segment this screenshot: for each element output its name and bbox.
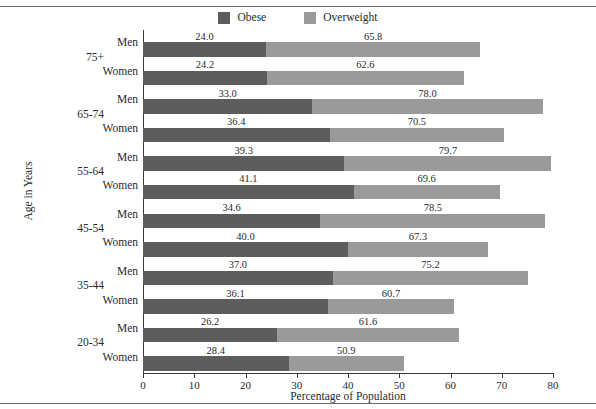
bar-value-overweight: 79.7: [439, 145, 457, 156]
bar-row: 28.450.9: [143, 344, 553, 373]
legend-label: Obese: [237, 12, 266, 24]
bar-value-overweight: 69.6: [417, 173, 435, 184]
sex-label: Women: [103, 179, 138, 191]
bar-segment-obese: [143, 242, 348, 257]
chart-legend: ObeseOverweight: [0, 10, 596, 26]
x-tick-mark: [451, 373, 452, 378]
bar-value-obese: 36.4: [227, 116, 245, 127]
bar-segment-overweight: [333, 271, 529, 286]
bar-value-obese: 33.0: [218, 88, 236, 99]
sex-label: Women: [103, 351, 138, 363]
bar-value-overweight: 65.8: [364, 31, 382, 42]
bar-value-overweight: 67.3: [409, 231, 427, 242]
bar-value-obese: 24.0: [195, 31, 213, 42]
age-group-labels: 75+65-7455-6445-5435-4420-34: [0, 30, 104, 373]
y-axis-title: Age in Years: [22, 131, 34, 251]
stacked-bar: [143, 299, 454, 314]
sex-label: Women: [103, 294, 138, 306]
bar-segment-overweight: [344, 156, 551, 171]
bar-value-overweight: 78.5: [424, 202, 442, 213]
bar-value-obese: 36.1: [226, 288, 244, 299]
x-tick-mark: [297, 373, 298, 378]
sex-label: Men: [117, 151, 138, 163]
bar-row: 40.067.3: [143, 230, 553, 259]
bar-value-obese: 26.2: [201, 316, 219, 327]
stacked-bar: [143, 328, 459, 343]
sex-label: Men: [117, 93, 138, 105]
bar-row: 34.678.5: [143, 202, 553, 231]
bar-row: 36.470.5: [143, 116, 553, 145]
bottom-rule: [0, 403, 596, 404]
bar-row: 41.169.6: [143, 173, 553, 202]
bar-segment-obese: [143, 214, 320, 229]
bar-segment-obese: [143, 42, 266, 57]
x-tick-mark: [194, 373, 195, 378]
age-group-label: 65-74: [77, 108, 104, 120]
age-group-label: 75+: [86, 51, 104, 63]
bar-segment-obese: [143, 128, 330, 143]
stacked-bar: [143, 128, 504, 143]
bar-segment-obese: [143, 71, 267, 86]
x-tick-mark: [553, 373, 554, 378]
legend-swatch-icon: [218, 12, 230, 24]
bar-segment-overweight: [266, 42, 480, 57]
bar-value-obese: 41.1: [239, 173, 257, 184]
top-rule: [0, 6, 596, 7]
bar-value-obese: 37.0: [229, 259, 247, 270]
bar-value-obese: 39.3: [235, 145, 253, 156]
sex-label: Women: [103, 65, 138, 77]
x-tick-mark: [348, 373, 349, 378]
age-group-label: 35-44: [77, 279, 104, 291]
bar-row: 36.160.7: [143, 287, 553, 316]
legend-entry-overweight: Overweight: [304, 12, 377, 24]
bar-row: 39.379.7: [143, 144, 553, 173]
stacked-bar: [143, 156, 551, 171]
x-tick-mark: [246, 373, 247, 378]
bar-value-obese: 34.6: [222, 202, 240, 213]
bar-segment-obese: [143, 156, 344, 171]
figure-chart: ObeseOverweight 24.065.824.262.633.078.0…: [0, 0, 596, 409]
bar-value-overweight: 60.7: [382, 288, 400, 299]
sex-label: Men: [117, 208, 138, 220]
bar-segment-overweight: [348, 242, 488, 257]
bar-segment-obese: [143, 356, 289, 371]
age-group-label: 55-64: [77, 165, 104, 177]
stacked-bar: [143, 71, 464, 86]
bar-row: 37.075.2: [143, 259, 553, 288]
legend-label: Overweight: [323, 12, 377, 24]
stacked-bar: [143, 242, 488, 257]
bar-segment-obese: [143, 328, 277, 343]
x-tick-mark: [143, 373, 144, 378]
bar-value-overweight: 62.6: [356, 59, 374, 70]
x-tick-mark: [399, 373, 400, 378]
age-group-label: 20-34: [77, 336, 104, 348]
x-axis-title: Percentage of Population: [143, 390, 553, 402]
bar-value-obese: 24.2: [196, 59, 214, 70]
stacked-bar: [143, 99, 543, 114]
bar-segment-overweight: [312, 99, 543, 114]
bar-value-obese: 28.4: [207, 345, 225, 356]
legend-entry-obese: Obese: [218, 12, 266, 24]
bar-row: 24.065.8: [143, 30, 553, 59]
bar-segment-overweight: [320, 214, 545, 229]
bar-segment-obese: [143, 299, 328, 314]
sex-label: Men: [117, 265, 138, 277]
sex-label: Men: [117, 322, 138, 334]
bar-value-obese: 40.0: [236, 231, 254, 242]
stacked-bar: [143, 185, 500, 200]
bar-row: 33.078.0: [143, 87, 553, 116]
bar-segment-overweight: [354, 185, 500, 200]
bar-segment-overweight: [330, 128, 505, 143]
bar-row: 26.261.6: [143, 316, 553, 345]
bar-segment-overweight: [328, 299, 454, 314]
stacked-bar: [143, 214, 545, 229]
bar-segment-obese: [143, 185, 354, 200]
bar-segment-obese: [143, 271, 333, 286]
age-group-label: 45-54: [77, 222, 104, 234]
bar-value-overweight: 61.6: [359, 316, 377, 327]
bar-value-overweight: 50.9: [337, 345, 355, 356]
sex-label: Women: [103, 122, 138, 134]
bar-segment-overweight: [267, 71, 464, 86]
stacked-bar: [143, 356, 404, 371]
stacked-bar: [143, 42, 480, 57]
